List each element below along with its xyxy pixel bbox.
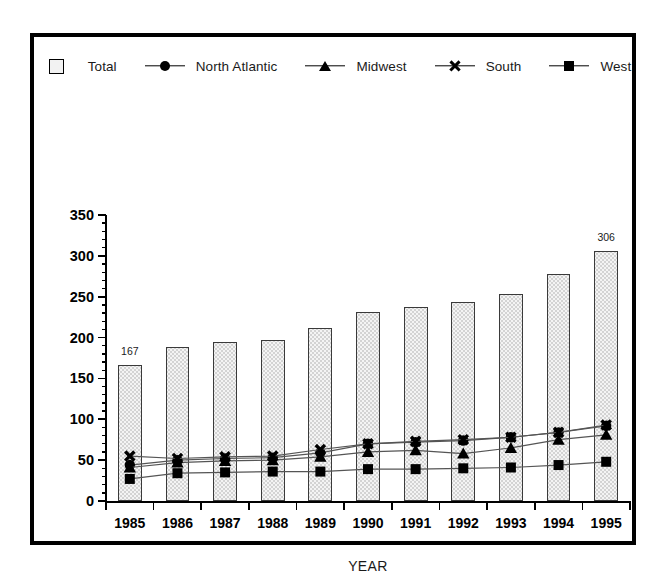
y-tick-minor bbox=[102, 288, 107, 289]
y-tick-label: 0 bbox=[86, 493, 94, 509]
y-tick-minor bbox=[102, 272, 107, 273]
bar-value-label: 306 bbox=[597, 231, 615, 243]
chart-figure: TotalNorth AtlanticMidwestSouthWest 0501… bbox=[0, 0, 666, 581]
x-tick bbox=[105, 501, 107, 510]
bar-1987[interactable] bbox=[213, 342, 237, 501]
circle-marker-icon bbox=[160, 61, 170, 71]
y-tick-minor bbox=[102, 280, 107, 281]
y-tick-minor bbox=[102, 239, 107, 240]
legend-entry-west[interactable]: West bbox=[547, 57, 631, 75]
square-marker-icon bbox=[564, 61, 574, 71]
y-tick-minor bbox=[102, 492, 107, 493]
plot-area: 050100150200250300350 167306 19851986198… bbox=[106, 215, 630, 501]
y-tick-major bbox=[98, 459, 106, 461]
y-tick-label: 300 bbox=[70, 248, 94, 264]
y-tick-minor bbox=[102, 247, 107, 248]
y-tick-minor bbox=[102, 386, 107, 387]
y-tick-minor bbox=[102, 361, 107, 362]
x-tick bbox=[343, 501, 345, 510]
x-tick bbox=[629, 501, 631, 510]
x-tick-label-1986: 1986 bbox=[162, 515, 193, 531]
y-axis-line bbox=[105, 215, 107, 501]
bar-1990[interactable] bbox=[356, 312, 380, 501]
y-tick-major bbox=[98, 255, 106, 257]
bar-1985[interactable] bbox=[118, 365, 142, 501]
bar-1986[interactable] bbox=[166, 347, 190, 501]
x-tick bbox=[582, 501, 584, 510]
legend-key-line-x bbox=[433, 57, 477, 75]
x-tick-label-1988: 1988 bbox=[257, 515, 288, 531]
x-tick-label-1994: 1994 bbox=[543, 515, 574, 531]
y-tick-minor bbox=[102, 345, 107, 346]
y-tick-minor bbox=[102, 468, 107, 469]
x-tick bbox=[296, 501, 298, 510]
y-tick-minor bbox=[102, 435, 107, 436]
bar-1992[interactable] bbox=[451, 302, 475, 501]
y-tick-minor bbox=[102, 263, 107, 264]
bar-1989[interactable] bbox=[308, 328, 332, 501]
legend-entry-south[interactable]: South bbox=[433, 57, 522, 75]
x-tick-label-1991: 1991 bbox=[400, 515, 431, 531]
y-tick-major bbox=[98, 418, 106, 420]
y-tick-major bbox=[98, 378, 106, 380]
legend-label: West bbox=[600, 59, 631, 74]
legend-key-swatch-stipple bbox=[35, 57, 79, 75]
chart-legend: TotalNorth AtlanticMidwestSouthWest bbox=[34, 57, 632, 75]
y-tick-minor bbox=[102, 231, 107, 232]
y-tick-minor bbox=[102, 370, 107, 371]
x-tick-label-1990: 1990 bbox=[352, 515, 383, 531]
legend-label: South bbox=[486, 59, 522, 74]
y-tick-label: 200 bbox=[70, 330, 94, 346]
y-tick-major bbox=[98, 337, 106, 339]
y-tick-label: 50 bbox=[78, 452, 94, 468]
x-marker-icon bbox=[448, 60, 461, 73]
chart-frame: TotalNorth AtlanticMidwestSouthWest 0501… bbox=[30, 33, 636, 545]
y-tick-minor bbox=[102, 222, 107, 223]
total-swatch-icon bbox=[49, 59, 64, 74]
x-tick-label-1985: 1985 bbox=[114, 515, 145, 531]
y-tick-minor bbox=[102, 402, 107, 403]
y-tick-major bbox=[98, 214, 106, 216]
legend-label: North Atlantic bbox=[196, 59, 278, 74]
legend-entry-total[interactable]: Total bbox=[35, 57, 117, 75]
x-tick-label-1993: 1993 bbox=[495, 515, 526, 531]
y-tick-major bbox=[98, 296, 106, 298]
bar-1995[interactable] bbox=[594, 251, 618, 501]
x-tick bbox=[248, 501, 250, 510]
x-tick bbox=[534, 501, 536, 510]
y-tick-label: 350 bbox=[70, 207, 94, 223]
x-tick bbox=[391, 501, 393, 510]
y-tick-minor bbox=[102, 484, 107, 485]
y-tick-minor bbox=[102, 321, 107, 322]
bar-1988[interactable] bbox=[261, 340, 285, 501]
bar-1991[interactable] bbox=[404, 307, 428, 501]
y-tick-minor bbox=[102, 304, 107, 305]
bar-value-label: 167 bbox=[121, 345, 139, 357]
bar-1993[interactable] bbox=[499, 294, 523, 501]
x-tick-label-1987: 1987 bbox=[210, 515, 241, 531]
y-tick-label: 250 bbox=[70, 289, 94, 305]
x-tick bbox=[200, 501, 202, 510]
y-tick-minor bbox=[102, 394, 107, 395]
x-tick-label-1989: 1989 bbox=[305, 515, 336, 531]
legend-entry-midwest[interactable]: Midwest bbox=[303, 57, 406, 75]
legend-key-line-triangle bbox=[303, 57, 347, 75]
x-axis-line bbox=[105, 501, 630, 503]
bar-1994[interactable] bbox=[547, 274, 571, 501]
x-tick bbox=[486, 501, 488, 510]
x-tick bbox=[439, 501, 441, 510]
y-tick-minor bbox=[102, 353, 107, 354]
y-tick-minor bbox=[102, 427, 107, 428]
y-tick-label: 100 bbox=[70, 411, 94, 427]
y-tick-minor bbox=[102, 410, 107, 411]
y-tick-minor bbox=[102, 312, 107, 313]
triangle-marker-icon bbox=[319, 61, 331, 71]
y-tick-minor bbox=[102, 443, 107, 444]
x-tick-label-1995: 1995 bbox=[591, 515, 622, 531]
x-tick-label-1992: 1992 bbox=[448, 515, 479, 531]
legend-label: Midwest bbox=[356, 59, 406, 74]
legend-entry-north-atlantic[interactable]: North Atlantic bbox=[143, 57, 278, 75]
legend-label: Total bbox=[88, 59, 117, 74]
y-tick-minor bbox=[102, 329, 107, 330]
y-tick-label: 150 bbox=[70, 370, 94, 386]
